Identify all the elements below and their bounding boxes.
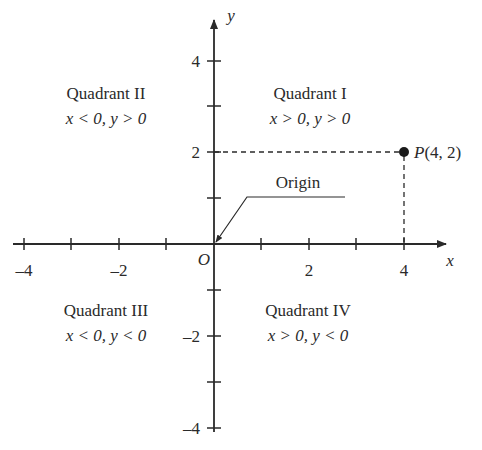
quadrant-ii-name: Quadrant II	[67, 84, 146, 103]
quadrant-iii-name: Quadrant III	[64, 301, 149, 320]
quadrant-i-condition: x > 0, y > 0	[269, 109, 351, 128]
x-tick-label-neg4: –4	[15, 261, 34, 280]
point-p-coords: (4, 2)	[424, 143, 461, 162]
x-tick-label-4: 4	[400, 261, 409, 280]
quadrant-ii: Quadrant II x < 0, y > 0	[65, 84, 147, 128]
quadrant-iv: Quadrant IV x > 0, y < 0	[265, 301, 351, 345]
point-p-marker	[399, 147, 409, 157]
origin-label: O	[198, 250, 210, 269]
point-p: P(4, 2)	[214, 143, 461, 244]
y-axis: 4 2 –2 –4 y	[182, 6, 235, 438]
quadrant-i-name: Quadrant I	[273, 84, 347, 103]
y-tick-label-neg2: –2	[182, 327, 200, 346]
x-tick-label-neg2: –2	[110, 261, 128, 280]
quadrant-iv-name: Quadrant IV	[265, 301, 351, 320]
quadrant-iii: Quadrant III x < 0, y < 0	[64, 301, 149, 345]
point-p-label: P(4, 2)	[413, 143, 461, 162]
origin-callout-label: Origin	[276, 173, 321, 192]
y-tick-label-2: 2	[192, 143, 201, 162]
coordinate-plane: –4 –2 2 4 x 4 2 –2 –4 y O Origin P(4, 2)	[0, 0, 482, 450]
x-tick-label-2: 2	[305, 261, 314, 280]
y-tick-label-neg4: –4	[182, 419, 201, 438]
y-axis-label: y	[225, 6, 235, 25]
quadrant-iii-condition: x < 0, y < 0	[65, 326, 147, 345]
x-axis: –4 –2 2 4 x	[13, 238, 454, 280]
quadrant-i: Quadrant I x > 0, y > 0	[269, 84, 351, 128]
quadrant-ii-condition: x < 0, y > 0	[65, 109, 147, 128]
origin-callout: Origin	[216, 173, 345, 242]
x-axis-label: x	[445, 251, 454, 270]
quadrant-iv-condition: x > 0, y < 0	[267, 326, 349, 345]
y-tick-label-4: 4	[192, 52, 201, 71]
